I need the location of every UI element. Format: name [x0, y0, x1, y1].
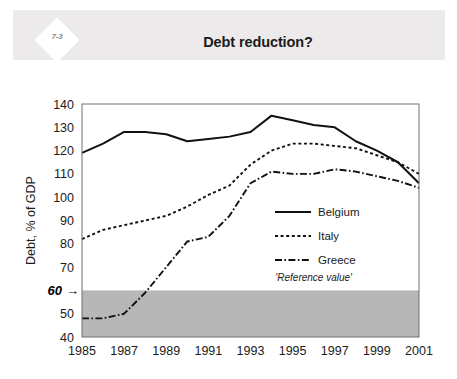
x-tick-label: 1991 — [194, 344, 222, 358]
sixty-callout-arrow-icon: → — [66, 283, 79, 298]
y-tick-label: 70 — [60, 261, 74, 275]
series-line-italy — [82, 144, 419, 240]
slide-header: 7-3 Debt reduction? — [13, 10, 445, 60]
reference-shaded-band — [82, 290, 419, 337]
series-line-belgium — [82, 116, 419, 184]
slide-number-label: 7-3 — [41, 32, 73, 41]
y-axis-ticks: 4050708090100110120130140 — [53, 98, 74, 345]
slide-canvas: 7-3 Debt reduction? 40507080901001101201… — [0, 0, 457, 379]
legend-label-greece: Greece — [318, 254, 356, 266]
x-tick-label: 1999 — [363, 344, 391, 358]
sixty-callout-label: 60 — [48, 283, 63, 298]
x-axis-ticks: 198519871989199119931995199719992001 — [68, 344, 433, 358]
shaded-region-rect — [82, 290, 419, 337]
debt-line-chart: 4050708090100110120130140 19851987198919… — [13, 62, 445, 367]
y-tick-label: 120 — [53, 144, 74, 158]
y-tick-label: 40 — [60, 331, 74, 345]
y-tick-label: 140 — [53, 98, 74, 112]
x-tick-label: 1989 — [152, 344, 180, 358]
chart-card: 4050708090100110120130140 19851987198919… — [13, 62, 445, 367]
legend-label-belgium: Belgium — [318, 206, 360, 218]
chart-legend: BelgiumItalyGreece — [275, 206, 360, 266]
legend-label-italy: Italy — [318, 230, 339, 242]
y-tick-label: 110 — [54, 167, 74, 181]
y-tick-label: 90 — [60, 214, 74, 228]
y-tick-label: 80 — [60, 237, 74, 251]
y-axis-title-text: Debt, % of GDP — [24, 176, 38, 265]
x-tick-label: 1997 — [321, 344, 349, 358]
series-layer — [82, 116, 419, 319]
y-axis-title: Debt, % of GDP — [24, 176, 38, 265]
x-tick-label: 2001 — [405, 344, 433, 358]
x-tick-label: 1993 — [237, 344, 265, 358]
reference-value-annotation: 'Reference value' — [275, 272, 353, 283]
x-tick-label: 1987 — [110, 344, 138, 358]
y-tick-label: 130 — [53, 121, 74, 135]
x-tick-label: 1995 — [279, 344, 307, 358]
x-tick-label: 1985 — [68, 344, 96, 358]
y-tick-label: 100 — [53, 191, 74, 205]
page-title: Debt reduction? — [93, 34, 423, 50]
y-tick-label: 50 — [60, 307, 74, 321]
